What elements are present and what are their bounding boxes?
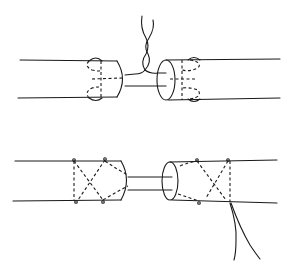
splice-diagram [0,0,291,273]
bottom-panel [13,158,277,260]
bottom-loose-thread-ends [230,203,260,260]
top-panel [18,16,280,102]
bottom-connecting-strands [128,177,172,190]
bottom-left-tube [13,158,128,204]
bottom-right-tube [162,159,277,205]
top-left-tube [18,58,123,101]
top-connecting-strands [125,16,166,86]
top-right-tube [157,58,280,102]
